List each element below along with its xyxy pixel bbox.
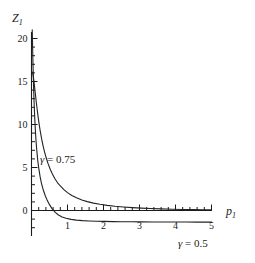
chart-figure: Z1 p1 γ = 0.75 γ = 0.5 0510152012345 — [0, 0, 255, 263]
y-axis-tick-label: 20 — [18, 34, 28, 44]
annotation-value: 0.5 — [194, 237, 208, 249]
y-axis-tick-label: 15 — [18, 77, 28, 87]
curve-gamma-05 — [32, 30, 211, 222]
x-axis-tick-label: 5 — [209, 221, 214, 231]
x-axis-tick-label: 2 — [101, 221, 106, 231]
y-axis-tick-label: 0 — [23, 206, 28, 216]
curve-gamma-075 — [33, 72, 212, 210]
annotation-equals: = — [182, 237, 194, 249]
annotation-value: 0.75 — [56, 153, 75, 165]
curve-annotation-gamma-075: γ = 0.75 — [40, 154, 75, 165]
axes-group — [32, 32, 213, 236]
y-axis-label-text: Z — [12, 11, 19, 25]
x-axis-label-subscript: 1 — [232, 211, 236, 220]
x-axis-tick-label: 3 — [137, 221, 142, 231]
curves-group — [32, 30, 211, 222]
plot-canvas — [0, 0, 255, 263]
y-axis-tick-label: 5 — [23, 163, 28, 173]
x-axis-label: p1 — [226, 205, 236, 220]
y-axis-label: Z1 — [12, 12, 23, 27]
ticks-group — [32, 39, 212, 228]
x-axis-tick-label: 4 — [173, 221, 178, 231]
annotation-equals: = — [44, 153, 56, 165]
x-axis-tick-label: 1 — [65, 221, 70, 231]
curve-annotation-gamma-05: γ = 0.5 — [178, 238, 208, 249]
y-axis-label-subscript: 1 — [19, 18, 23, 27]
y-axis-tick-label: 10 — [18, 120, 28, 130]
